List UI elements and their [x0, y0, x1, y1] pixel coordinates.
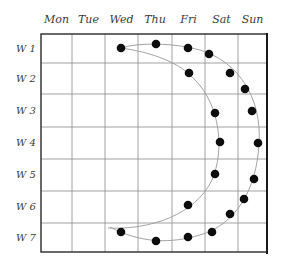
row-label-w1: W 1	[16, 43, 36, 54]
dot-marker	[216, 138, 225, 147]
row-label-w7: W 7	[16, 232, 36, 243]
dot-marker	[152, 237, 161, 246]
dot-marker	[211, 109, 220, 118]
dot-marker	[184, 201, 193, 210]
calendar-crescent-diagram: MonTueWedThuFriSatSun W 1W 2W 3W 4W 5W 6…	[0, 0, 286, 266]
row-label-w2: W 2	[16, 73, 36, 84]
dot-marker	[184, 233, 193, 242]
dot-markers	[117, 40, 263, 246]
dot-marker	[241, 85, 250, 94]
outer-arc-curve	[110, 44, 259, 241]
dot-marker	[211, 170, 220, 179]
dot-marker	[254, 139, 263, 148]
dot-marker	[250, 175, 259, 184]
dot-marker	[248, 107, 257, 116]
inner-arc-curve	[108, 48, 219, 228]
column-label-thu: Thu	[144, 13, 166, 26]
dot-marker	[185, 69, 194, 78]
column-label-sat: Sat	[212, 13, 231, 26]
column-label-sun: Sun	[242, 13, 264, 26]
row-label-w3: W 3	[16, 105, 36, 116]
week-row-labels: W 1W 2W 3W 4W 5W 6W 7	[16, 43, 36, 243]
dot-marker	[205, 50, 214, 59]
day-column-labels: MonTueWedThuFriSatSun	[43, 13, 263, 26]
dot-marker	[117, 44, 126, 53]
dot-marker	[184, 44, 193, 53]
dot-marker	[226, 69, 235, 78]
dot-marker	[208, 228, 217, 237]
column-label-tue: Tue	[78, 13, 99, 26]
dot-marker	[226, 210, 235, 219]
row-label-w5: W 5	[16, 169, 36, 180]
calendar-grid	[41, 34, 267, 252]
dot-marker	[152, 40, 161, 49]
grid-frame	[41, 34, 267, 252]
dot-marker	[240, 195, 249, 204]
column-label-mon: Mon	[43, 13, 69, 26]
row-label-w6: W 6	[16, 201, 36, 212]
column-label-wed: Wed	[110, 13, 134, 26]
column-label-fri: Fri	[179, 13, 196, 26]
row-label-w4: W 4	[16, 137, 36, 148]
dot-marker	[117, 228, 126, 237]
